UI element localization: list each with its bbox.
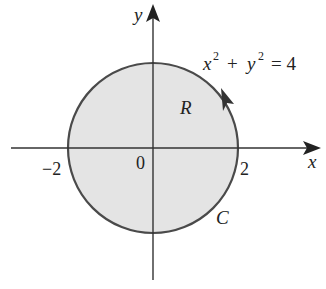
tick-label-2: 2 bbox=[240, 159, 249, 179]
tick-label-neg2: −2 bbox=[42, 159, 61, 179]
origin-label: 0 bbox=[136, 153, 145, 173]
equation-x: x bbox=[202, 53, 212, 74]
y-axis-label: y bbox=[132, 4, 143, 25]
equation-plus: + bbox=[227, 53, 238, 74]
equation-rhs: = 4 bbox=[271, 53, 296, 74]
equation-exponent-2: 2 bbox=[258, 49, 264, 63]
curve-equation: x 2 + y 2 = 4 bbox=[202, 49, 296, 74]
equation-exponent-1: 2 bbox=[213, 49, 219, 63]
curve-label: C bbox=[216, 207, 229, 228]
equation-y: y bbox=[245, 53, 256, 74]
region-label: R bbox=[179, 97, 192, 118]
diagram-canvas: y x 0 −2 2 R C x 2 + y 2 = 4 bbox=[0, 0, 326, 289]
x-axis-label: x bbox=[307, 151, 317, 172]
diagram-svg: y x 0 −2 2 R C x 2 + y 2 = 4 bbox=[0, 0, 326, 289]
